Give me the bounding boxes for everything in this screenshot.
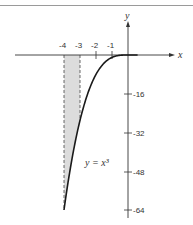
y-axis-arrow-icon <box>126 21 130 27</box>
y-tick-label: -64 <box>133 206 145 215</box>
x-tick-label: -4 <box>59 41 67 50</box>
y-axis-label: y <box>124 10 130 21</box>
x-axis-arrow-icon <box>169 53 175 57</box>
y-tick-group: -16 -32 -48 -64 <box>124 90 145 215</box>
x-tick-label: -2 <box>91 41 99 50</box>
x-tick-label: -1 <box>107 41 115 50</box>
y-tick-label: -16 <box>133 90 145 99</box>
x-tick-label: -3 <box>75 41 83 50</box>
cubic-function-chart: x y -4 -3 -2 -1 -16 -32 -48 -64 y = x³ <box>0 0 193 225</box>
y-tick-label: -32 <box>133 129 145 138</box>
equation-label: y = x³ <box>84 157 110 168</box>
y-tick-label: -48 <box>133 168 145 177</box>
x-axis-label: x <box>177 49 183 60</box>
